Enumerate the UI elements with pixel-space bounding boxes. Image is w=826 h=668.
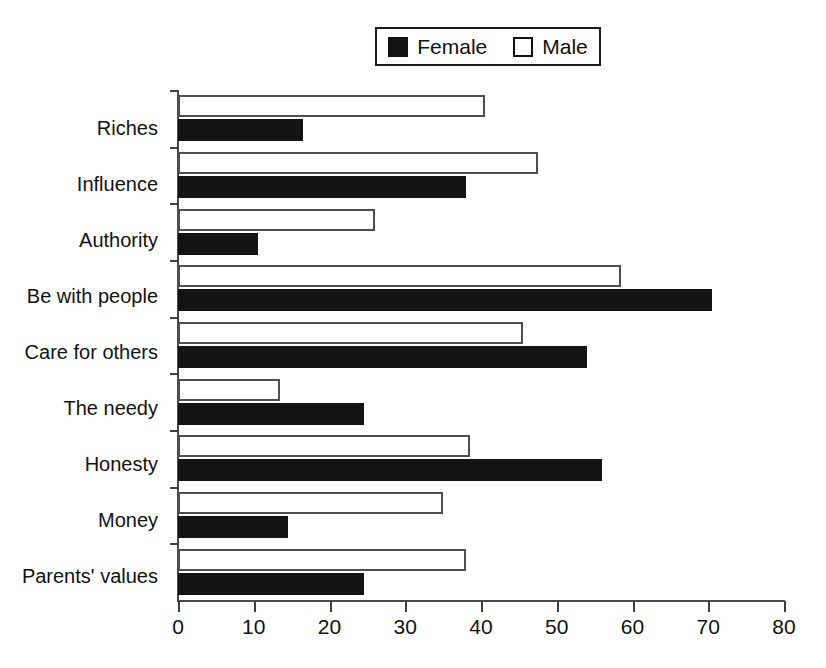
bar-male-the-needy: [178, 379, 280, 401]
bar-group-honesty: [178, 430, 784, 487]
x-tick-label-20: 20: [305, 616, 355, 637]
bar-male-care-for-others: [178, 322, 523, 344]
x-tick-label-70: 70: [683, 616, 733, 637]
plot-area: 01020304050607080: [178, 90, 784, 600]
x-tick-80: [784, 601, 786, 612]
bar-female-the-needy: [178, 403, 364, 425]
legend-label-male: Male: [542, 36, 588, 57]
legend-label-female: Female: [417, 36, 487, 57]
bar-female-care-for-others: [178, 346, 587, 368]
bar-male-be-with-people: [178, 265, 621, 287]
filled-square-icon: [388, 37, 408, 57]
legend-entry-female: Female: [388, 36, 487, 57]
x-tick-50: [557, 601, 559, 612]
bar-female-parents-values: [178, 573, 364, 595]
x-tick-label-30: 30: [380, 616, 430, 637]
category-label-riches: Riches: [97, 118, 158, 138]
category-label-authority: Authority: [79, 230, 158, 250]
bar-male-authority: [178, 209, 375, 231]
x-tick-60: [633, 601, 635, 612]
category-label-money: Money: [98, 510, 158, 530]
bar-female-honesty: [178, 459, 602, 481]
bar-male-riches: [178, 95, 485, 117]
y-tick-3: [170, 260, 179, 262]
x-tick-70: [708, 601, 710, 612]
bar-female-riches: [178, 119, 303, 141]
x-tick-label-40: 40: [456, 616, 506, 637]
category-label-influence: Influence: [77, 174, 158, 194]
x-tick-0: [178, 601, 180, 612]
category-label-parents-values: Parents' values: [22, 566, 158, 586]
x-tick-label-80: 80: [759, 616, 809, 637]
bar-chart: Female Male Riches Influence Authority B…: [0, 0, 826, 668]
bar-group-parents-values: [178, 543, 784, 600]
bar-group-influence: [178, 147, 784, 204]
x-tick-40: [481, 601, 483, 612]
bar-male-parents-values: [178, 549, 466, 571]
x-tick-30: [405, 601, 407, 612]
chart-legend: Female Male: [375, 27, 601, 66]
category-axis-labels: Riches Influence Authority Be with peopl…: [0, 90, 168, 600]
category-label-be-with-people: Be with people: [27, 286, 158, 306]
bar-female-money: [178, 516, 288, 538]
y-tick-7: [170, 487, 179, 489]
y-tick-5: [170, 373, 179, 375]
y-tick-6: [170, 430, 179, 432]
bar-male-influence: [178, 152, 538, 174]
bar-group-care-for-others: [178, 317, 784, 374]
bar-group-the-needy: [178, 373, 784, 430]
x-tick-label-60: 60: [608, 616, 658, 637]
bar-group-authority: [178, 203, 784, 260]
y-tick-8: [170, 543, 179, 545]
bar-male-money: [178, 492, 443, 514]
bar-male-honesty: [178, 435, 470, 457]
y-tick-4: [170, 317, 179, 319]
bar-female-influence: [178, 176, 466, 198]
legend-entry-male: Male: [513, 36, 588, 57]
bar-group-be-with-people: [178, 260, 784, 317]
y-tick-0: [170, 90, 179, 92]
x-tick-label-50: 50: [532, 616, 582, 637]
category-label-the-needy: The needy: [63, 398, 158, 418]
category-label-honesty: Honesty: [85, 454, 158, 474]
y-tick-2: [170, 203, 179, 205]
x-tick-label-10: 10: [229, 616, 279, 637]
hollow-square-icon: [513, 37, 533, 57]
y-tick-1: [170, 147, 179, 149]
bar-female-authority: [178, 233, 258, 255]
x-tick-20: [330, 601, 332, 612]
category-label-care-for-others: Care for others: [25, 342, 158, 362]
x-tick-label-0: 0: [153, 616, 203, 637]
bar-group-money: [178, 487, 784, 544]
bar-group-riches: [178, 90, 784, 147]
bar-female-be-with-people: [178, 289, 712, 311]
x-tick-10: [254, 601, 256, 612]
